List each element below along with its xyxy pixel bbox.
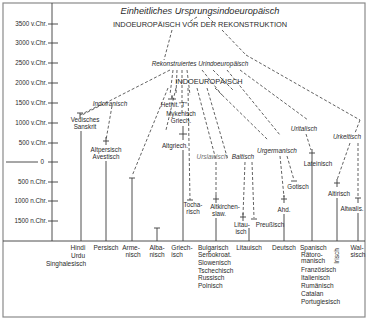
label-litauisch-2: isch	[235, 228, 247, 235]
leaf-singhalesisch: Singhalesisch	[46, 260, 86, 268]
leaf-urdu: Urdu	[71, 252, 85, 259]
leaf-persisch: Persisch	[94, 244, 119, 251]
branch-uritalisch: Uritalisch	[291, 125, 318, 132]
leaf-walisisch-2: sisch	[351, 251, 366, 258]
leaf-franzoesisch: Französisch	[301, 266, 336, 273]
leaf-armenisch-2: nisch	[125, 251, 141, 258]
tick-label: 1500 v.Chr.	[15, 99, 47, 106]
branch-urslawisch: Urslawisch	[197, 153, 228, 160]
tick-label: 500 n.Chr.	[18, 178, 47, 185]
label-sanskrit: Sanskrit	[74, 123, 97, 130]
indo-european-family-tree: 3500 v.Chr. 3000 v.Chr. 2500 v.Chr. 2000…	[0, 0, 369, 324]
branch-baltisch: Baltisch	[232, 153, 255, 160]
label-ahd: Ahd.	[278, 206, 291, 213]
title-pre-reconstruction: INDOEUROPÄISCH VOR DER REKONSTRUKTION	[113, 20, 287, 29]
label-tocharisch-2: risch	[186, 208, 200, 215]
label-mykenisch-griech: Griech.	[171, 117, 192, 124]
label-litauisch-1: Litau-	[234, 221, 250, 228]
tick-label: 3000 v.Chr.	[15, 39, 47, 46]
label-hethitisch: Hethit."T"	[161, 101, 188, 108]
label-altkirchenslawisch: Altkirchen-	[210, 203, 240, 210]
label-preussisch: Preußisch	[256, 221, 285, 228]
leaf-griechisch-2: isch	[171, 251, 183, 258]
tick-label: 1000 n.Chr.	[14, 197, 47, 204]
top-connectors	[164, 17, 360, 120]
branch-urgermanisch: Urgermanisch	[257, 147, 297, 155]
tick-label: 0	[40, 158, 44, 165]
reconstructed-pie-label: Rekonstruiertes Urindoeuropäisch	[152, 60, 249, 68]
leaf-serbokroatisch: Serbokroat.	[198, 251, 232, 258]
branch-urkeltisch: Urkeltisch	[333, 133, 361, 140]
leaf-litauisch: Litauisch	[236, 244, 262, 251]
leaf-tschechisch: Tschechisch	[198, 267, 234, 274]
label-altirisch: Altirisch	[328, 190, 351, 197]
tick-label: 1000 v.Chr.	[15, 119, 47, 126]
leaf-deutsch: Deutsch	[272, 244, 296, 251]
leaf-polnisch: Polnisch	[198, 282, 223, 289]
leaf-italienisch: Italienisch	[301, 274, 330, 281]
time-axis: 3500 v.Chr. 3000 v.Chr. 2500 v.Chr. 2000…	[6, 3, 58, 241]
leaf-hindi: Hindi	[71, 244, 86, 251]
branch-connectors	[80, 70, 308, 200]
leaf-griechisch-1: Griech-	[171, 244, 192, 251]
tick-label: 500 v.Chr.	[19, 139, 47, 146]
label-tocharisch-1: Tocha-	[184, 201, 203, 208]
leaf-slowenisch: Slowenisch	[198, 259, 231, 266]
tick-label: 3500 v.Chr.	[15, 20, 47, 27]
leaf-russisch: Russisch	[198, 274, 225, 281]
label-altgriechisch: Altgriech.	[162, 142, 188, 150]
leaf-armenisch-1: Arme-	[122, 244, 140, 251]
title-unified-proto: Einheitliches Ursprungsindoeuropäisch	[121, 6, 280, 16]
leaf-catalan: Catalan	[301, 290, 324, 297]
leaf-albanisch-1: Alba-	[149, 244, 164, 251]
tick-label: 2000 v.Chr.	[15, 79, 47, 86]
leaf-walisisch-1: Wal-	[350, 244, 363, 251]
label-gotisch: Gotisch	[287, 183, 309, 190]
label-vedisches: Vedisches	[71, 116, 100, 123]
label-lateinisch: Lateinisch	[304, 160, 333, 167]
label-avestisch: Avestisch	[93, 153, 120, 160]
leaf-albanisch-2: nisch	[149, 251, 165, 258]
branch-indoiranisch: Indoiranisch	[93, 100, 128, 107]
leaf-irisch: Irisch	[333, 248, 340, 264]
leaf-raetoromanisch-2: manisch	[301, 257, 326, 264]
tick-label: 1500 n.Chr.	[14, 217, 47, 224]
label-altwalisisch: Altwalis.	[340, 205, 363, 212]
leaf-rumaenisch: Rumänisch	[301, 282, 334, 289]
leaf-portugiesisch: Portugiesisch	[301, 298, 340, 306]
tick-label: 2500 v.Chr.	[15, 59, 47, 66]
label-altkirchenslawisch-2: slaw.	[212, 210, 226, 217]
modern-languages: Hindi Urdu Singhalesisch Persisch Arme- …	[46, 244, 366, 306]
